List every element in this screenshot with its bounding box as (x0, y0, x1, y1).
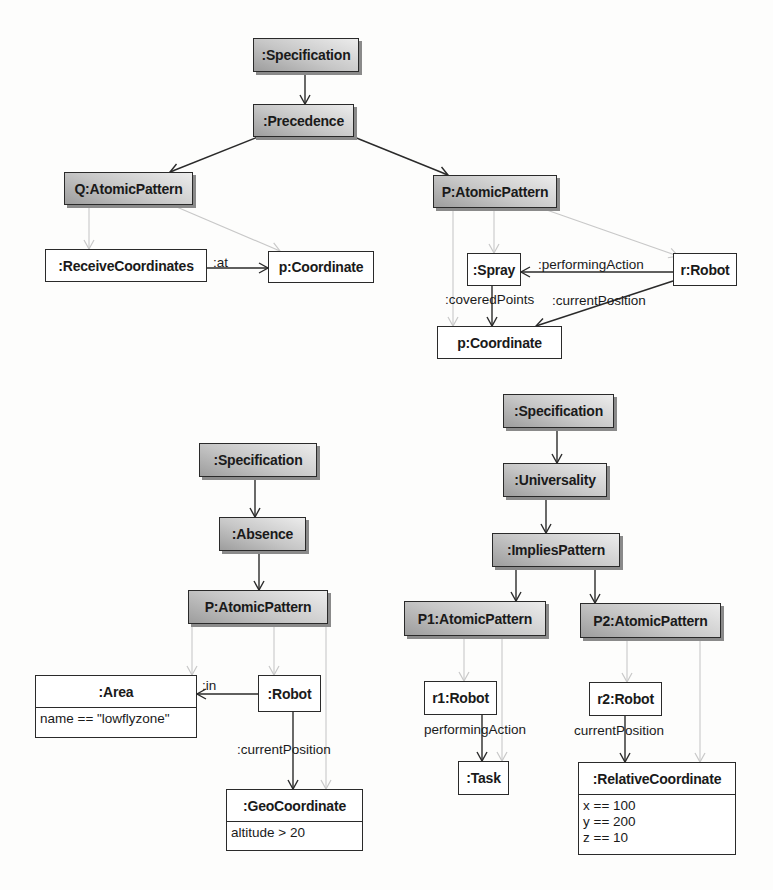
geo-coordinate-node[interactable]: :GeoCoordinate altitude > 20 (226, 789, 363, 851)
node-title: :ImpliesPattern (493, 534, 619, 566)
edge-label-current-position-absence: :currentPosition (237, 743, 331, 757)
node-title: :Universality (504, 464, 606, 496)
node-title: :Task (459, 762, 508, 794)
node-title: :Area (36, 676, 196, 708)
node-title: P:AtomicPattern (189, 591, 327, 623)
specification-node-universality[interactable]: :Specification (503, 394, 614, 428)
q-atomic-pattern-node[interactable]: Q:AtomicPattern (64, 172, 193, 205)
task-node[interactable]: :Task (458, 761, 509, 795)
specification-node-top[interactable]: :Specification (253, 38, 359, 72)
edges-layer (0, 0, 773, 890)
node-title: :RelativeCoordinate (579, 763, 735, 795)
r1-robot-node[interactable]: r1:Robot (424, 681, 497, 715)
relative-coordinate-node[interactable]: :RelativeCoordinate x == 100 y == 200 z … (578, 762, 736, 855)
edge-label-at: :at (213, 256, 228, 270)
edge-label-current-position: :currentPosition (552, 294, 646, 308)
p-atomic-pattern-node-top[interactable]: P:AtomicPattern (433, 175, 557, 208)
edge-label-covered-points: :coveredPoints (445, 293, 534, 307)
specification-node-absence[interactable]: :Specification (199, 443, 317, 477)
p1-atomic-pattern-node[interactable]: P1:AtomicPattern (404, 601, 546, 636)
diagram-canvas: :Specification :Precedence Q:AtomicPatte… (0, 0, 773, 890)
node-title: r:Robot (674, 254, 736, 285)
edge-label-in: :in (202, 679, 216, 693)
p-atomic-pattern-node-absence[interactable]: P:AtomicPattern (188, 590, 328, 624)
node-title: Q:AtomicPattern (65, 173, 192, 204)
node-title: p:Coordinate (269, 252, 373, 282)
node-title: r1:Robot (425, 682, 496, 714)
receive-coordinates-node[interactable]: :ReceiveCoordinates (45, 249, 207, 282)
relative-coordinate-attributes: x == 100 y == 200 z == 10 (579, 795, 735, 854)
node-title: :ReceiveCoordinates (46, 250, 206, 281)
node-title: :Precedence (254, 105, 353, 136)
implies-pattern-node[interactable]: :ImpliesPattern (492, 533, 620, 567)
robot-node-absence[interactable]: :Robot (258, 675, 321, 712)
node-title: :Absence (220, 518, 305, 550)
edge-label-current-position-universality: currentPosition (574, 724, 664, 738)
area-attributes: name == "lowflyzone" (36, 708, 196, 737)
node-title: P2:AtomicPattern (581, 604, 720, 637)
node-title: :Spray (468, 254, 520, 285)
coordinate-node-bottom[interactable]: p:Coordinate (437, 326, 562, 359)
robot-node-top[interactable]: r:Robot (673, 253, 737, 286)
precedence-node[interactable]: :Precedence (253, 104, 354, 137)
node-title: :Robot (259, 676, 320, 711)
edge-label-performing-action-universality: performingAction (424, 723, 526, 737)
node-title: p:Coordinate (438, 327, 561, 358)
node-title: r2:Robot (590, 683, 661, 715)
area-node[interactable]: :Area name == "lowflyzone" (35, 675, 197, 738)
r2-robot-node[interactable]: r2:Robot (589, 682, 662, 716)
node-title: :Specification (200, 444, 316, 476)
coordinate-node-left[interactable]: p:Coordinate (268, 251, 374, 283)
spray-node[interactable]: :Spray (467, 253, 521, 286)
absence-node[interactable]: :Absence (219, 517, 306, 551)
geo-coordinate-attributes: altitude > 20 (227, 822, 362, 850)
edge-label-performing-action: :performingAction (538, 258, 644, 272)
universality-node[interactable]: :Universality (503, 463, 607, 497)
node-title: :Specification (504, 395, 613, 427)
node-title: :GeoCoordinate (227, 790, 362, 822)
node-title: :Specification (254, 39, 358, 71)
node-title: P:AtomicPattern (434, 176, 556, 207)
node-title: P1:AtomicPattern (405, 602, 545, 635)
p2-atomic-pattern-node[interactable]: P2:AtomicPattern (580, 603, 721, 638)
